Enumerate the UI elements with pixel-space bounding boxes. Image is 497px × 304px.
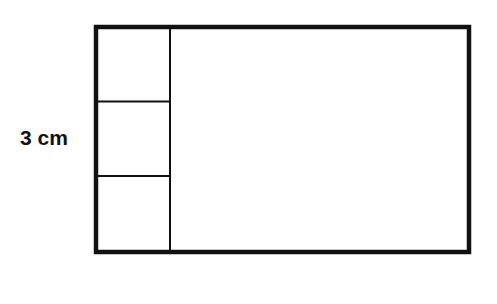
rectangle-diagram	[0, 0, 497, 304]
outer-rectangle	[96, 27, 469, 252]
